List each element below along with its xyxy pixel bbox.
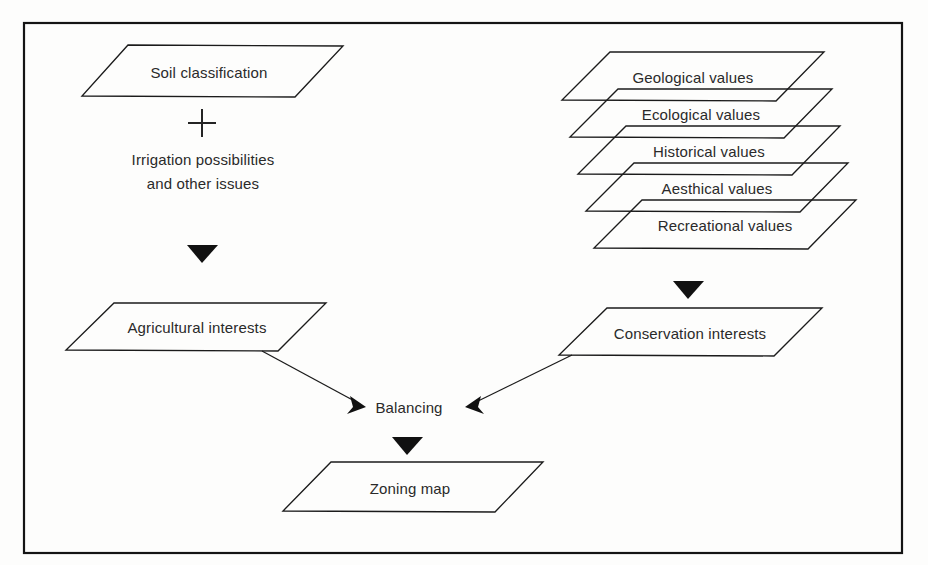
diagram-canvas: Soil classification Irrigation possibili… [0, 0, 928, 565]
label-value-layer-ecological: Ecological values [642, 106, 760, 123]
arrow-balancing-to-zoning-icon [392, 437, 423, 455]
diagram-vector-layer [0, 0, 928, 565]
diagram-frame [24, 23, 902, 553]
connector-conservation-to-balancing [472, 355, 572, 404]
label-value-layer-recreational: Recreational values [658, 217, 793, 234]
label-conservation-interests: Conservation interests [614, 325, 767, 342]
label-value-layer-aesthical: Aesthical values [662, 180, 773, 197]
label-value-layer-historical: Historical values [653, 143, 765, 160]
arrow-values-to-conservation-icon [673, 281, 704, 299]
label-zoning-map: Zoning map [370, 480, 451, 497]
label-irrigation-line1: Irrigation possibilities [132, 151, 275, 168]
label-soil-classification: Soil classification [150, 64, 267, 81]
label-value-layer-geological: Geological values [633, 69, 754, 86]
label-agricultural-interests: Agricultural interests [127, 319, 266, 336]
label-balancing: Balancing [375, 399, 442, 416]
arrow-conservation-to-balancing-icon [465, 396, 484, 414]
connector-agricultural-to-balancing [262, 351, 360, 404]
label-irrigation-line2: and other issues [147, 175, 259, 192]
arrow-soil-to-agricultural-icon [187, 245, 218, 263]
